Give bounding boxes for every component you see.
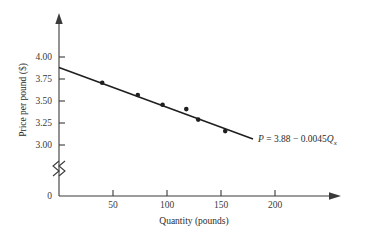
equation-equals: = bbox=[264, 134, 274, 144]
chart-container: 4.00 3.75 3.50 3.25 3.00 0 50 100 150 20… bbox=[0, 0, 374, 235]
data-point bbox=[196, 117, 201, 122]
y-axis-title: Price per pound ($) bbox=[18, 63, 29, 137]
equation-slope: 0.0045 bbox=[301, 134, 327, 144]
regression-equation-annotation: P = 3.88 − 0.0045Qx bbox=[257, 134, 338, 147]
data-point bbox=[136, 93, 141, 98]
y-tick-label-400: 4.00 bbox=[35, 52, 52, 62]
x-axis-ticks bbox=[113, 190, 275, 196]
data-point bbox=[160, 102, 165, 107]
x-tick-label-50: 50 bbox=[108, 200, 118, 210]
y-tick-label-300: 3.00 bbox=[35, 140, 52, 150]
x-tick-label-200: 200 bbox=[268, 200, 283, 210]
y-tick-label-350: 3.50 bbox=[35, 96, 52, 106]
x-axis bbox=[59, 192, 341, 199]
data-point bbox=[100, 80, 105, 85]
y-axis-origin-label: 0 bbox=[47, 191, 52, 201]
data-point bbox=[223, 129, 228, 134]
x-axis-arrowhead bbox=[329, 192, 341, 199]
equation-intercept: 3.88 bbox=[274, 134, 291, 144]
x-tick-label-100: 100 bbox=[160, 200, 175, 210]
regression-line bbox=[59, 68, 253, 139]
y-tick-label-325: 3.25 bbox=[35, 118, 52, 128]
equation-subscript: x bbox=[333, 139, 338, 147]
y-tick-label-375: 3.75 bbox=[35, 74, 52, 84]
x-axis-title: Quantity (pounds) bbox=[159, 216, 228, 227]
equation-operator: − bbox=[291, 134, 301, 144]
y-axis-arrowhead bbox=[55, 13, 62, 24]
price-quantity-scatter-chart: 4.00 3.75 3.50 3.25 3.00 0 50 100 150 20… bbox=[0, 0, 374, 235]
data-point bbox=[184, 107, 189, 112]
x-tick-label-150: 150 bbox=[214, 200, 229, 210]
